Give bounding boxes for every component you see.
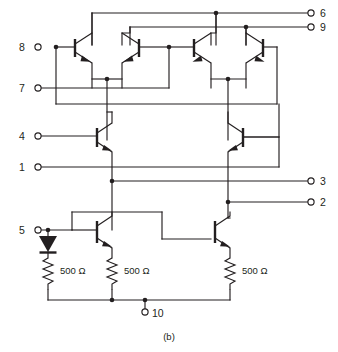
terminal-pin-7[interactable] <box>35 85 41 91</box>
resistor-r3-body <box>225 258 235 290</box>
junction-dot-ground-r2 <box>110 298 115 303</box>
output-stage-q7 <box>72 212 211 258</box>
junction-dot-q2-q3-base <box>167 45 172 50</box>
resistor-labels: 500 Ω 500 Ω 500 Ω <box>60 265 268 276</box>
ground-bus <box>48 298 230 309</box>
output-runs <box>112 181 308 202</box>
resistor-r2-body <box>107 258 117 290</box>
resistor-r3-branch <box>225 258 235 300</box>
pin5-diode-branch <box>39 228 72 300</box>
q1-emitter-arrow <box>81 56 91 62</box>
pin-labels-right: 6 9 3 2 <box>320 7 326 208</box>
pin-labels-left: 8 7 4 1 5 <box>19 41 25 236</box>
resistor-r1-body <box>43 258 53 290</box>
terminal-pin-9[interactable] <box>308 24 314 30</box>
circuit-schematic-canvas: 8 7 4 1 5 6 9 3 2 10 500 Ω 500 Ω 500 Ω (… <box>0 0 338 352</box>
pin-label-4: 4 <box>19 130 25 142</box>
pin-label-5: 5 <box>19 224 25 236</box>
terminal-pin-8[interactable] <box>35 44 41 50</box>
right-differential-pair <box>54 13 277 140</box>
pin-label-7: 7 <box>19 82 25 94</box>
q6-collector-lead <box>228 123 243 133</box>
q1-collector-lead <box>75 33 92 44</box>
junction-dot-pin8 <box>54 45 59 50</box>
pin-label-9: 9 <box>320 21 326 33</box>
terminal-pin-4[interactable] <box>35 133 41 139</box>
q5-collector-lead <box>97 123 112 133</box>
wire-q2-collector-to-rail <box>122 27 130 33</box>
middle-stage-right-q6 <box>41 104 279 218</box>
resistor-label-r1: 500 Ω <box>60 265 86 276</box>
pin-label-6: 6 <box>320 7 326 19</box>
pin-label-8: 8 <box>19 41 25 53</box>
pin-label-2: 2 <box>320 196 326 208</box>
pin-label-3: 3 <box>320 175 326 187</box>
terminal-pin-1[interactable] <box>35 164 41 170</box>
pin-labels-bottom: 10 <box>152 307 164 319</box>
wire-q3-collector-to-rail <box>211 13 216 33</box>
circuit-diagram: 8 7 4 1 5 6 9 3 2 10 500 Ω 500 Ω 500 Ω (… <box>0 0 338 352</box>
q7-collector-lead <box>97 216 112 226</box>
q3-collector-lead <box>194 33 211 44</box>
q4-collector-lead <box>246 33 263 44</box>
pin-label-1: 1 <box>19 161 25 173</box>
figure-caption: (b) <box>163 331 175 342</box>
resistor-label-r3: 500 Ω <box>242 265 268 276</box>
wire-q6-feedback <box>244 137 279 167</box>
terminal-pin-3[interactable] <box>308 178 314 184</box>
resistor-label-r2: 500 Ω <box>124 265 150 276</box>
pin-label-10: 10 <box>152 307 164 319</box>
diode-triangle <box>39 236 57 252</box>
q2-emitter-arrow <box>124 56 134 62</box>
terminal-pin-5[interactable] <box>35 227 41 233</box>
terminal-pin-6[interactable] <box>308 10 314 16</box>
terminal-pin-10[interactable] <box>142 309 148 315</box>
output-stage-q8 <box>215 212 230 258</box>
resistor-r2-branch <box>107 258 117 300</box>
terminal-pin-2[interactable] <box>308 199 314 205</box>
pin7-base-link <box>41 45 171 88</box>
